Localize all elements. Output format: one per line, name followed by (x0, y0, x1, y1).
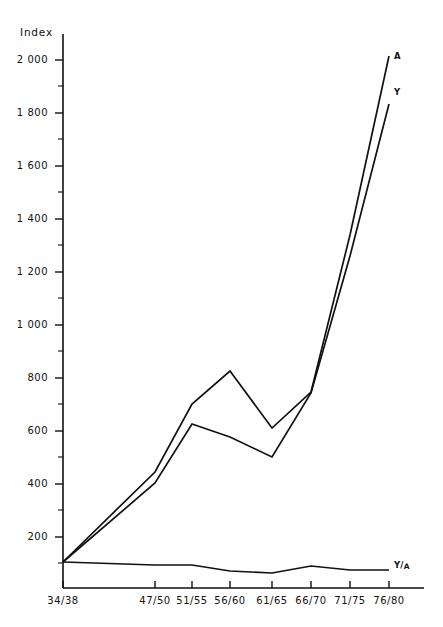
x-tick-label-7680: 76/80 (364, 595, 414, 606)
x-axis-ticks (63, 581, 389, 588)
y-tick-label-1800: 1 800 (4, 107, 48, 118)
y-tick-label-800: 800 (4, 372, 48, 383)
y-tick-label-400: 400 (4, 478, 48, 489)
series-line-y-over-a (63, 562, 389, 573)
index-line-chart: Index 200 400 600 800 1 000 1 200 1 400 … (0, 0, 443, 627)
series-label-a: A (394, 51, 401, 61)
series-label-y: Y (394, 87, 401, 97)
series-line-a (63, 56, 389, 562)
y-tick-label-1200: 1 200 (4, 266, 48, 277)
chart-canvas (0, 0, 443, 627)
y-tick-label-1600: 1 600 (4, 160, 48, 171)
y-tick-label-200: 200 (4, 531, 48, 542)
x-tick-label-3438: 34/38 (38, 595, 88, 606)
ratio-denominator: A (404, 562, 410, 571)
series-line-y (63, 104, 389, 562)
y-tick-label-600: 600 (4, 425, 48, 436)
y-tick-label-1000: 1 000 (4, 319, 48, 330)
y-tick-label-1400: 1 400 (4, 213, 48, 224)
y-axis-title: Index (20, 26, 53, 38)
series-label-y-over-a: Y/A (394, 560, 410, 571)
y-tick-label-2000: 2 000 (4, 54, 48, 65)
